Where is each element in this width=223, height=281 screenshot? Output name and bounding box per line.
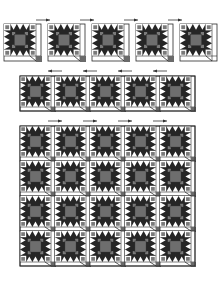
arrow-right-icon — [80, 18, 94, 21]
arrow-right-icon — [118, 119, 132, 122]
star-block — [48, 24, 86, 62]
arrow-left-icon — [118, 69, 132, 72]
star-block — [160, 76, 196, 112]
star-block — [125, 231, 161, 267]
star-block — [125, 196, 161, 232]
star-block — [20, 231, 56, 267]
star-block — [160, 161, 196, 197]
star-block — [55, 196, 91, 232]
star-block — [20, 196, 56, 232]
star-block — [20, 161, 56, 197]
arrow-right-icon — [36, 18, 50, 21]
star-block — [90, 76, 126, 112]
star-block — [125, 76, 161, 112]
star-block — [136, 24, 174, 62]
arrow-right-icon — [83, 119, 97, 122]
arrow-left-icon — [83, 69, 97, 72]
star-block — [55, 76, 91, 112]
quilt-assembly-diagram — [0, 0, 223, 281]
arrow-right-icon — [153, 119, 167, 122]
arrow-right-icon — [124, 18, 138, 21]
arrow-right-icon — [48, 119, 62, 122]
star-block — [4, 24, 42, 62]
star-block — [20, 76, 56, 112]
arrow-left-icon — [48, 69, 62, 72]
arrow-right-icon — [168, 18, 182, 21]
star-block — [160, 231, 196, 267]
star-block — [90, 126, 126, 162]
arrow-left-icon — [153, 69, 167, 72]
quilt-top-grid — [20, 119, 196, 267]
star-block — [92, 24, 130, 62]
row-2-joined-strip — [20, 69, 196, 112]
star-block — [55, 161, 91, 197]
row-1-separate-blocks — [4, 18, 217, 62]
star-block — [55, 126, 91, 162]
star-block — [55, 231, 91, 267]
star-block — [90, 161, 126, 197]
star-block — [90, 231, 126, 267]
star-block — [125, 161, 161, 197]
star-block — [125, 126, 161, 162]
star-block — [180, 24, 217, 61]
star-block — [160, 126, 196, 162]
star-block — [160, 196, 196, 232]
star-block — [20, 126, 56, 162]
star-block — [90, 196, 126, 232]
